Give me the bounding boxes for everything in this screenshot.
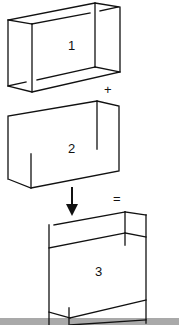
box-2-label: 2 [68, 141, 75, 156]
assembly-diagram: 1 + 2 = 3 [0, 0, 179, 325]
box-2: 2 [8, 101, 119, 188]
box-3: 3 [49, 212, 146, 325]
equals-sign: = [113, 191, 121, 206]
box-1: 1 [8, 3, 120, 92]
plus-sign: + [104, 82, 112, 97]
box-3-label: 3 [95, 264, 102, 279]
arrow-down-icon [66, 188, 78, 216]
box-1-label: 1 [68, 38, 75, 53]
